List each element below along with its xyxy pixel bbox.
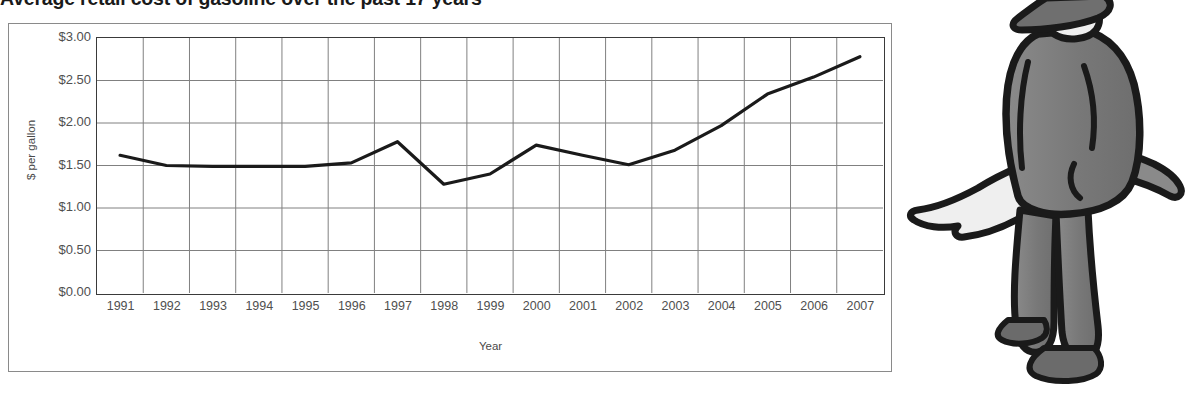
cartoon-man-svg [898, 0, 1185, 393]
gasoline-price-chart-page: Average retail cost of gasoline over the… [0, 0, 1185, 393]
x-tick-label: 1999 [465, 299, 517, 313]
x-tick-label: 1991 [95, 299, 147, 313]
y-tick-label: $2.00 [29, 114, 91, 129]
x-tick-label: 1993 [187, 299, 239, 313]
y-tick-label: $1.50 [29, 157, 91, 172]
y-tick-label: $0.00 [29, 284, 91, 299]
x-tick-label: 2000 [511, 299, 563, 313]
x-tick-label: 1998 [418, 299, 470, 313]
x-tick-label: 2003 [649, 299, 701, 313]
plot-area [96, 37, 885, 295]
x-tick-label: 1992 [141, 299, 193, 313]
right-leg [1056, 210, 1098, 358]
left-shoe [998, 320, 1047, 344]
y-axis-tick-labels: $3.00$2.50$2.00$1.50$1.00$0.50$0.00 [23, 37, 91, 295]
x-tick-label: 2005 [742, 299, 794, 313]
x-tick-label: 1994 [233, 299, 285, 313]
x-tick-label: 2007 [834, 299, 886, 313]
y-tick-label: $2.50 [29, 72, 91, 87]
x-axis-tick-labels: 1991199219931994199519961997199819992000… [96, 299, 885, 321]
x-tick-label: 1996 [326, 299, 378, 313]
y-tick-label: $1.00 [29, 199, 91, 214]
page-title: Average retail cost of gasoline over the… [0, 0, 700, 11]
x-tick-label: 2004 [696, 299, 748, 313]
x-tick-label: 2002 [603, 299, 655, 313]
right-shoe [1030, 348, 1102, 381]
chart-frame: $ per gallon $3.00$2.50$2.00$1.50$1.00$0… [8, 23, 892, 372]
x-tick-label: 2001 [557, 299, 609, 313]
line-chart-svg [97, 38, 883, 293]
x-axis-title: Year [96, 340, 885, 352]
x-tick-label: 2006 [788, 299, 840, 313]
cartoon-man-pointing-left-illustration [898, 0, 1185, 393]
x-tick-label: 1995 [280, 299, 332, 313]
y-tick-label: $3.00 [29, 29, 91, 44]
x-tick-label: 1997 [372, 299, 424, 313]
y-tick-label: $0.50 [29, 242, 91, 257]
